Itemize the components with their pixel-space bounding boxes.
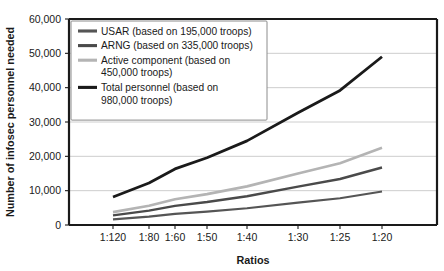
y-tick-label: 0	[55, 219, 61, 231]
y-tick-label: 40,000	[29, 81, 61, 93]
x-tick-label: 1:40	[237, 231, 258, 243]
y-tick-label: 30,000	[29, 116, 61, 128]
legend-label: Active component (based on	[101, 55, 230, 66]
chart-legend: USAR (based on 195,000 troops)ARNG (base…	[71, 21, 267, 120]
x-tick-label: 1:60	[165, 231, 186, 243]
x-tick-label: 1:50	[197, 231, 218, 243]
x-tick-label: 1:30	[288, 231, 309, 243]
x-tick-label: 1:120	[100, 231, 126, 243]
x-tick-label: 1:20	[372, 231, 393, 243]
y-tick-label: 10,000	[29, 184, 61, 196]
legend-label: 980,000 troops)	[101, 95, 172, 106]
line-chart: 010,00020,00030,00040,00050,00060,000 1:…	[0, 0, 444, 271]
legend-label: ARNG (based on 335,000 troops)	[101, 40, 253, 51]
chart-container: 010,00020,00030,00040,00050,00060,000 1:…	[0, 0, 444, 271]
y-tick-label: 50,000	[29, 47, 61, 59]
y-tick-label: 20,000	[29, 150, 61, 162]
legend-label: USAR (based on 195,000 troops)	[101, 26, 252, 37]
x-axis-title: Ratios	[237, 254, 270, 266]
legend-label: Total personnel (based on	[101, 82, 218, 93]
y-axis-title: Number of infosec personnel needed	[4, 27, 16, 217]
legend-label: 450,000 troops)	[101, 67, 172, 78]
x-tick-label: 1:25	[330, 231, 351, 243]
y-tick-label: 60,000	[29, 13, 61, 25]
x-tick-label: 1:80	[139, 231, 160, 243]
